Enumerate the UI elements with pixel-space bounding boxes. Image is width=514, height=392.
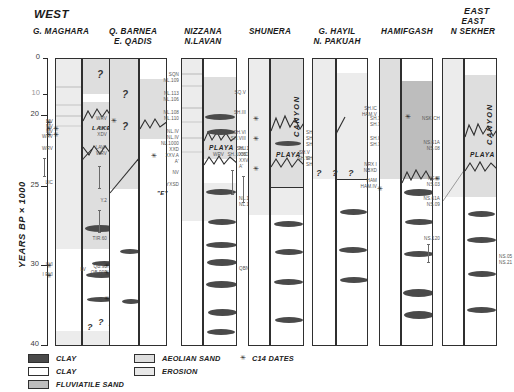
sample-label: SQ.V xyxy=(224,90,246,95)
clay-lens xyxy=(404,189,433,196)
sample-label: NL.IV xyxy=(155,129,179,134)
c14-star: ✳ xyxy=(104,296,110,303)
y-tick-label-0: 0 xyxy=(22,52,40,61)
band-line xyxy=(182,107,202,109)
sample-label: NL.110 xyxy=(155,116,179,121)
clay-lens xyxy=(274,221,303,227)
sample-label: SH.VI xyxy=(224,130,246,135)
facies-label-canyon: CANYON xyxy=(485,103,494,145)
legend-label-clay-white: CLAY xyxy=(56,367,76,376)
band-white xyxy=(313,179,335,346)
c14-star: ✳ xyxy=(53,132,59,139)
legend-label-c14-dates: C14 DATES xyxy=(252,354,294,363)
sample-label: WRV xyxy=(210,152,224,157)
range-bar-cap xyxy=(231,170,234,171)
sample-label: NRX I xyxy=(355,162,377,167)
clay-lens xyxy=(207,259,237,266)
band-white-lower xyxy=(337,179,367,346)
unconformity-line-icon xyxy=(443,167,464,203)
y-tick-20 xyxy=(41,115,48,116)
sample-label: NS.61A xyxy=(416,196,440,201)
clay-lens xyxy=(404,311,433,319)
query-mark: ? xyxy=(97,69,103,80)
subcolumn-main xyxy=(336,58,368,346)
sample-label: SH.VIII xyxy=(224,136,246,141)
sample-label: NL.109 xyxy=(155,78,179,83)
range-bar-cap xyxy=(98,188,101,189)
subcolumn-left xyxy=(248,58,270,346)
sample-label: SH.IC xyxy=(355,106,377,111)
band-line xyxy=(56,115,81,117)
sample-label: NS.03 xyxy=(416,182,440,187)
subcolumn-left xyxy=(442,58,464,346)
range-bar xyxy=(44,158,45,176)
legend-swatch-aeolian-sand xyxy=(134,354,155,363)
clay-lens xyxy=(275,317,303,323)
range-bar-cap xyxy=(427,262,430,263)
sample-label: NS.08 xyxy=(416,146,440,151)
column-header-q-barnea-line1: Q. BARNEA xyxy=(96,27,170,37)
query-mark: ? xyxy=(332,168,338,178)
range-bar xyxy=(99,210,100,232)
sample-label: XXD xyxy=(155,147,179,152)
band-white-top xyxy=(465,59,496,75)
clay-lens xyxy=(206,242,237,248)
column-header-hamifgash: HAMIFGASH xyxy=(372,27,442,37)
subcolumn-left: ? ? xyxy=(109,58,139,346)
query-mark: ? xyxy=(348,168,354,178)
sample-label: NL.IV xyxy=(155,135,179,140)
column-header-nizzana-line2: N.LAVAN xyxy=(172,37,234,47)
sample-label: LV xyxy=(74,267,86,272)
y-axis-line xyxy=(47,58,48,346)
c14-star: ✳ xyxy=(111,118,117,125)
query-mark: ? xyxy=(122,121,128,132)
range-bar xyxy=(428,244,429,262)
legend-label-aeolian-sand: AEOLIAN SAND xyxy=(162,354,221,363)
sample-label: NL.113 xyxy=(155,91,179,96)
clay-lens xyxy=(275,141,301,146)
column-header-g-hayil-line1: G. HAYIL xyxy=(306,27,368,37)
y-tick-40 xyxy=(41,345,48,346)
clay-lens xyxy=(403,289,433,297)
range-bar-cap xyxy=(242,202,245,203)
c14-star: ✳ xyxy=(46,263,52,270)
clay-lens xyxy=(340,209,367,215)
subcolumn-left xyxy=(312,58,336,346)
band-line xyxy=(182,85,202,87)
sample-label: HAM.V xyxy=(355,112,377,117)
query-mark: ? xyxy=(87,322,93,332)
y-axis-title: YEARS BP × 1000 xyxy=(16,181,27,268)
column-header-east-line2: N SEKHER xyxy=(440,27,506,37)
query-mark: ? xyxy=(122,89,128,100)
legend-swatch-clay-white xyxy=(28,367,49,376)
clay-lens xyxy=(339,247,367,253)
band-line xyxy=(182,137,202,139)
subcolumn-main: PLAYA xyxy=(203,58,237,346)
c14-star: ✳ xyxy=(46,132,52,139)
range-bar-cap xyxy=(43,158,46,159)
band-line xyxy=(56,104,81,106)
column-header-g-hayil-line2: N. PAKUAH xyxy=(306,37,368,47)
sample-label: SH.III xyxy=(224,110,246,115)
range-bar xyxy=(99,166,100,188)
range-bar xyxy=(243,176,244,202)
legend: CLAY CLAY FLUVIATILE SAND AEOLIAN SAND E… xyxy=(28,352,328,392)
band-white xyxy=(110,189,138,346)
band-white-top xyxy=(402,59,432,81)
subcolumn-main: CANYON PLAYA xyxy=(464,58,497,346)
clay-lens xyxy=(208,219,236,225)
c14-star: ✳ xyxy=(253,166,259,173)
sample-label: NS.09 xyxy=(416,202,440,207)
range-bar-cap xyxy=(43,176,46,177)
sample-label: B.U xyxy=(89,126,107,131)
band-aeolian-2 xyxy=(182,189,202,221)
sample-label: Y.2 xyxy=(89,198,107,203)
legend-c14-star-icon: ✳ xyxy=(240,354,246,362)
clay-lens xyxy=(467,237,496,243)
clay-lens xyxy=(122,299,139,304)
sample-label: SH.V xyxy=(288,150,310,155)
sample-label: NBXD xyxy=(355,168,377,173)
sample-label: NL.1000 xyxy=(155,141,179,146)
y-tick-25 xyxy=(41,186,48,187)
sample-label: HAM xyxy=(355,178,377,183)
